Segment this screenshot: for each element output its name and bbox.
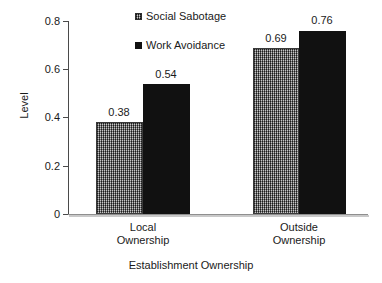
bar-social-sabotage-local xyxy=(96,122,143,214)
bar-value-label: 0.69 xyxy=(246,33,306,44)
y-axis-tick-label: 0 xyxy=(20,209,60,220)
y-axis-tick-label: 0.2 xyxy=(20,161,60,172)
legend-label: Social Sabotage xyxy=(146,11,226,22)
bar-value-label: 0.54 xyxy=(136,69,196,80)
legend-item-work-avoidance: Work Avoidance xyxy=(135,40,225,51)
bar-value-label: 0.76 xyxy=(292,15,352,26)
y-axis-tick xyxy=(63,21,69,22)
x-axis-category-label-outside: Outside Ownership xyxy=(234,221,364,247)
x-axis-line xyxy=(68,214,368,215)
bar-work-avoidance-local xyxy=(143,84,190,214)
y-axis-tick xyxy=(63,166,69,167)
y-axis-tick-label: 0.6 xyxy=(20,64,60,75)
bar-chart: Social Sabotage Work Avoidance 0.8 0.6 0… xyxy=(0,0,382,283)
legend-label: Work Avoidance xyxy=(146,40,225,51)
y-axis-line xyxy=(68,21,69,215)
bar-social-sabotage-outside xyxy=(253,48,299,214)
y-axis-title: Level xyxy=(19,76,30,136)
bar-work-avoidance-outside xyxy=(299,31,346,214)
bar-value-label: 0.38 xyxy=(89,107,149,118)
cross-hatch-swatch-icon xyxy=(135,13,142,20)
x-axis-title: Establishment Ownership xyxy=(0,259,382,271)
y-axis-tick xyxy=(63,117,69,118)
x-axis-shadow xyxy=(69,215,369,217)
x-axis-category-label-local: Local Ownership xyxy=(78,221,208,247)
legend-item-social-sabotage: Social Sabotage xyxy=(135,11,226,22)
y-axis-tick-label: 0.8 xyxy=(20,16,60,27)
y-axis-tick xyxy=(63,69,69,70)
solid-black-swatch-icon xyxy=(135,42,142,49)
